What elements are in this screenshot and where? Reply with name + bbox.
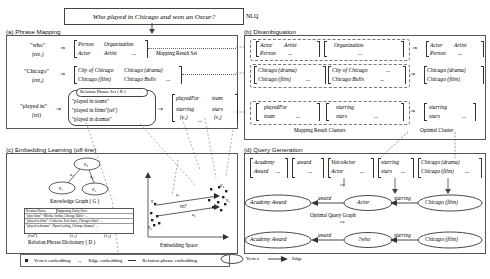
qg-top-left-edge: award — [318, 195, 331, 201]
d-legend-edge-label: Edge — [292, 256, 302, 261]
legend-edge-embedding: Edge embedding — [89, 258, 123, 263]
d-arrow-mid-top: ⇨ — [340, 182, 345, 188]
qg-bottom-middle-vertex: ?who — [358, 236, 370, 242]
d-legend-vertex-label: Vertex — [246, 256, 259, 261]
legend-relation-phrase-embedding: Relation phrase embedding — [142, 258, 197, 263]
qg-bottom-right-edge: starring — [394, 232, 411, 238]
bottom-legend: Vertex embedding → Edge embedding Relati… — [20, 254, 230, 267]
qg-top-right-edge: starring — [394, 195, 411, 201]
qg-top-right-vertex: Chicago (film) — [425, 199, 458, 205]
qg-top-left-vertex: Academy Award — [250, 199, 286, 205]
qg-bottom-right-vertex: Chicago (film) — [425, 236, 458, 242]
qg-bottom-left-edge: award — [318, 232, 331, 238]
vertex-embedding-icon — [25, 259, 28, 262]
qg-bottom-left-vertex: Academy Award — [250, 236, 286, 242]
relation-phrase-embedding-icon — [128, 260, 136, 261]
figure-root: Who played in Chicago and won an Oscar? … — [0, 0, 490, 279]
legend-vertex-embedding: Vertex embedding — [34, 258, 71, 263]
edge-embedding-icon: → — [77, 258, 83, 264]
query-graph-svg — [0, 0, 490, 279]
d-arrow-mid-bottom: ⇨ — [340, 219, 345, 225]
qg-top-middle-vertex: Actor — [357, 199, 369, 205]
optimal-query-graph-label: Optimal Query Graph — [310, 212, 356, 218]
